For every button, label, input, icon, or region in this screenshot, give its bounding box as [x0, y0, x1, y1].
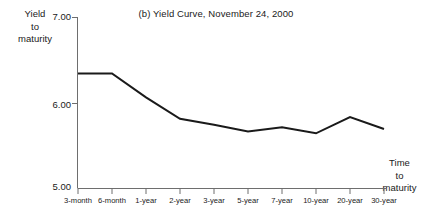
y-axis — [72, 17, 78, 188]
yield-curve-chart: (b) Yield Curve, November 24, 2000 Yield… — [0, 0, 428, 213]
plot-area — [0, 0, 428, 213]
x-axis — [78, 189, 387, 195]
yield-curve-line — [78, 73, 384, 133]
